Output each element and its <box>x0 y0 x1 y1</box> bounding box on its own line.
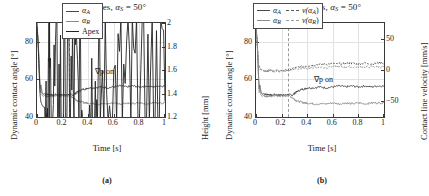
legend-label: αR <box>273 16 281 25</box>
panel-a-xlabel: Time [s] <box>0 143 214 153</box>
figure-time-series: Time series, αS = 50° Dynamic contact an… <box>0 0 429 196</box>
x-tick-label: 0.8 <box>352 118 362 127</box>
legend-label: αA <box>82 6 90 15</box>
x-tick-label: 0.2 <box>57 118 67 127</box>
legend-seg-dashed: v(αR) <box>286 16 319 25</box>
legend-item: αA v(αA) <box>257 6 319 16</box>
legend-label: αA <box>273 6 281 15</box>
panel-a-ylabel-right: Height [mm] <box>200 96 210 140</box>
y-tick-label-right: 1.2 <box>167 112 177 121</box>
y-tick-label-right: 0 <box>386 65 390 74</box>
legend-line-icon <box>257 10 270 11</box>
series-2 <box>256 26 384 72</box>
x-tick-label: 0.6 <box>327 118 337 127</box>
panel-a: Time series, αS = 50° Dynamic contact an… <box>0 0 214 196</box>
panel-a-title-sub: S <box>120 5 123 12</box>
panel-b-ylabel-left: Dynamic contact angle [°] <box>224 50 234 140</box>
legend-line-icon <box>66 11 79 12</box>
panel-b-caption: (b) <box>215 176 429 185</box>
panel-b-legend: αA v(αA) αR v(αR) <box>253 3 323 29</box>
y-tick-label-left: 60 <box>18 74 33 83</box>
x-tick-label: 1 <box>381 118 385 127</box>
legend-line-icon <box>66 21 79 22</box>
y-tick-label-right: 1.8 <box>167 41 177 50</box>
series-1 <box>256 27 384 105</box>
legend-label: v(αA) <box>302 6 319 15</box>
y-tick-label-left: 80 <box>237 36 252 45</box>
panel-a-legend: αA αR Apex <box>62 3 103 39</box>
legend-item: αA <box>66 6 99 16</box>
legend-line-icon <box>257 20 270 21</box>
legend-item: Apex <box>66 26 99 36</box>
y-tick-label-right: 1.4 <box>167 88 177 97</box>
panel-a-title: Time series, αS = 50° <box>0 2 214 12</box>
x-tick-label: 0 <box>34 118 38 127</box>
panel-b-plot-area <box>255 22 385 118</box>
legend-label: Apex <box>82 27 99 36</box>
x-tick-label: 0 <box>253 118 257 127</box>
legend-seg-solid: αR <box>257 16 281 25</box>
legend-label: v(αR) <box>302 16 319 25</box>
x-tick-label: 0.4 <box>82 118 92 127</box>
legend-label: αR <box>82 16 90 25</box>
x-tick-label: 0.8 <box>133 118 143 127</box>
y-tick-label-right: −50 <box>386 96 399 105</box>
panel-a-caption: (a) <box>0 176 214 185</box>
y-tick-label-left: 40 <box>237 112 252 121</box>
legend-dashed-line-icon <box>286 10 299 11</box>
legend-dashed-line-icon <box>286 20 299 21</box>
legend-item: αR v(αR) <box>257 16 319 26</box>
panel-b-title-value: = 50° <box>341 2 361 12</box>
legend-item: αR <box>66 16 99 26</box>
curve-layer <box>256 23 384 117</box>
panel-b: Time series, αS = 50° Dynamic contact an… <box>215 0 429 196</box>
x-tick-label: 1 <box>162 118 166 127</box>
gradient-on-annotation: ∇p on <box>314 75 333 84</box>
panel-a-title-value: = 50° <box>126 2 146 12</box>
gradient-on-annotation: ∇p on <box>95 67 114 76</box>
panel-b-xlabel: Time [s] <box>215 143 429 153</box>
legend-line-icon <box>66 31 79 32</box>
x-tick-label: 0.2 <box>276 118 286 127</box>
y-tick-label-left: 40 <box>18 112 33 121</box>
gridline-vertical <box>165 23 166 117</box>
panel-a-ylabel-left: Dynamic contact angle [°] <box>9 50 19 140</box>
y-tick-label-right: 50 <box>386 33 394 42</box>
panel-b-title-sub: S <box>335 5 338 12</box>
series-0 <box>256 27 384 96</box>
series-3 <box>256 26 384 72</box>
y-tick-label-right: 1.6 <box>167 65 177 74</box>
panel-b-ylabel-right: Contact line velocity [mm/s] <box>419 43 429 141</box>
y-tick-label-right: 2 <box>167 18 171 27</box>
gridline-vertical <box>384 23 385 117</box>
x-tick-label: 0.6 <box>108 118 118 127</box>
legend-seg-dashed: v(αA) <box>286 6 319 15</box>
y-tick-label-left: 80 <box>18 36 33 45</box>
legend-seg-solid: αA <box>257 6 281 15</box>
x-tick-label: 0.4 <box>301 118 311 127</box>
y-tick-label-left: 60 <box>237 74 252 83</box>
